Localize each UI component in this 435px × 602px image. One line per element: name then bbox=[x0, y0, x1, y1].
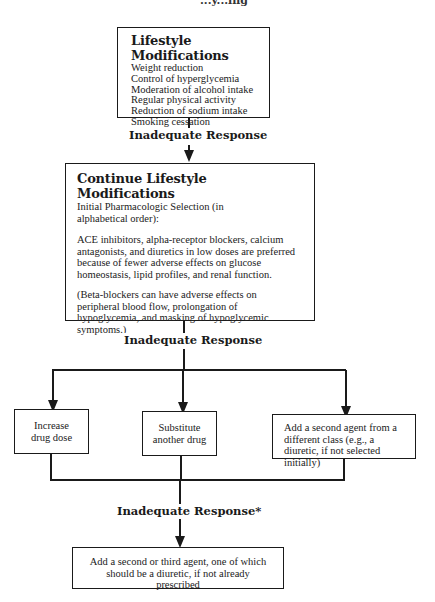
add-second-agent-box: Add a second agent from a different clas… bbox=[272, 414, 416, 459]
substitute-drug-box: Substitute another drug bbox=[142, 411, 217, 456]
continue-paragraph-beta-blockers: (Beta-blockers can have adverse effects … bbox=[77, 289, 306, 335]
lifestyle-item: Control of hyperglycemia bbox=[131, 74, 263, 85]
lifestyle-items-list: Weight reduction Control of hyperglycemi… bbox=[131, 63, 263, 128]
substitute-line1: Substitute bbox=[143, 422, 216, 434]
connector-line bbox=[343, 459, 345, 481]
connector-line bbox=[183, 349, 185, 370]
add-second-or-third-agent-box: Add a second or third agent, one of whic… bbox=[72, 547, 284, 589]
lifestyle-title: Lifestyle Modifications bbox=[131, 33, 263, 63]
connector-line bbox=[345, 370, 347, 407]
lifestyle-item: Smoking cessation bbox=[131, 117, 263, 128]
final-text: Add a second or third agent, one of whic… bbox=[83, 556, 273, 591]
lifestyle-modifications-box: Lifestyle Modifications Weight reduction… bbox=[117, 27, 270, 118]
continue-paragraph-preferred: ACE inhibitors, alpha-receptor blockers,… bbox=[77, 234, 306, 280]
merge-bar bbox=[50, 479, 345, 481]
increase-drug-dose-box: Increase drug dose bbox=[14, 409, 89, 454]
connector-line bbox=[179, 480, 181, 506]
connector-line bbox=[52, 369, 54, 401]
continue-title: Continue Lifestyle Modifications bbox=[77, 171, 306, 201]
continue-lifestyle-box: Continue Lifestyle Modifications Initial… bbox=[65, 163, 315, 321]
page-header-fragment: ...y...ing bbox=[200, 0, 248, 7]
connector-line bbox=[182, 369, 184, 403]
second-agent-text: Add a second agent from a different clas… bbox=[284, 422, 407, 468]
edge-label-inadequate-response-1: Inadequate Response bbox=[127, 128, 269, 142]
increase-dose-line1: Increase bbox=[15, 420, 88, 432]
arrow-down-icon bbox=[184, 150, 194, 162]
substitute-line2: another drug bbox=[143, 434, 216, 446]
increase-dose-line2: drug dose bbox=[15, 432, 88, 444]
split-bar bbox=[52, 369, 346, 371]
connector-line bbox=[180, 456, 182, 480]
connector-line bbox=[50, 454, 52, 479]
edge-label-inadequate-response-2: Inadequate Response bbox=[122, 333, 264, 347]
continue-subtitle: Initial Pharmacologic Selection (in alph… bbox=[77, 201, 306, 224]
edge-label-inadequate-response-3: Inadequate Response* bbox=[115, 504, 263, 518]
